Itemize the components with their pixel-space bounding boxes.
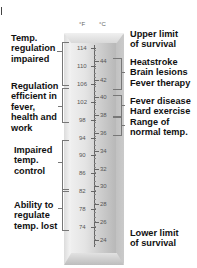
minor-tick [94,176,96,177]
celsius-tick: 38 [100,112,107,118]
fahrenheit-tick-label: 78 [79,206,86,212]
minor-tick [94,199,96,200]
minor-tick [94,145,96,146]
tick-mark [94,80,99,81]
minor-tick [94,68,96,69]
fahrenheit-tick-label: 74 [79,224,86,230]
minor-tick [94,190,96,191]
celsius-tick-label: 40 [100,94,107,100]
tick-mark [94,133,99,134]
fahrenheit-tick: 82 [77,188,86,194]
minor-tick [94,127,96,128]
thermometer-top-bevel [64,33,124,43]
minor-tick [94,212,96,213]
bracket-connector [121,105,125,106]
fahrenheit-tick-label: 102 [77,99,87,105]
bracket-heatstroke-group [113,58,122,90]
minor-tick [94,230,96,231]
fahrenheit-tick-label: 106 [77,81,87,87]
minor-tick [94,50,96,51]
celsius-tick-label: 28 [100,201,107,207]
minor-tick [94,59,96,60]
bracket-connector [121,125,125,126]
fahrenheit-tick: 102 [77,99,87,105]
tick-mark [94,169,99,170]
minor-tick [94,91,96,92]
fahrenheit-tick-label: 86 [79,170,86,176]
minor-tick [94,64,96,65]
minor-tick [94,226,96,227]
minor-tick [94,100,96,101]
minor-tick [94,172,96,173]
minor-tick [94,113,96,114]
fahrenheit-tick: 90 [77,152,86,158]
bracket-ability-lost [62,189,69,231]
minor-tick [94,109,96,110]
minor-tick [94,136,96,137]
minor-tick [94,122,96,123]
minor-tick [94,217,96,218]
minor-tick [94,208,96,209]
label-upper-limit-of-survival: Upper limit of survival [130,29,178,50]
fahrenheit-tick-label: 114 [77,45,87,51]
minor-tick [94,163,96,164]
tick-mark [94,240,99,241]
celsius-tick-label: 38 [100,112,107,118]
bracket-connector [121,72,125,73]
bracket-connector [57,51,62,52]
minor-tick [94,131,96,132]
fahrenheit-unit-label: °F [79,21,85,27]
minor-tick [94,154,96,155]
fahrenheit-tick: 110 [77,63,87,69]
minor-tick [94,235,96,236]
celsius-tick-label: 42 [100,77,107,83]
celsius-tick-label: 26 [100,219,107,225]
thermometer-bottom-bevel [64,253,124,265]
bracket-regulation-efficient [62,88,69,123]
minor-tick [94,221,96,222]
minor-tick [94,104,96,105]
minor-tick [94,194,96,195]
tick-mark [91,173,96,174]
bracket-impaired-temp-control [62,140,69,192]
tick-mark [91,227,96,228]
fahrenheit-tick: 78 [77,206,86,212]
tick-mark [91,66,96,67]
fahrenheit-tick: 86 [77,170,86,176]
bracket-temp-regulation-impaired [62,42,69,86]
fahrenheit-tick-label: 82 [79,188,86,194]
label-regulation-efficient: Regulation efficient in fever, health an… [11,81,58,133]
celsius-tick-label: 24 [100,237,107,243]
tick-mark [94,222,99,223]
celsius-tick-label: 30 [100,183,107,189]
fahrenheit-tick-label: 98 [79,117,86,123]
minor-tick [94,82,96,83]
minor-tick [94,55,96,56]
minor-tick [94,149,96,150]
celsius-tick: 42 [100,77,107,83]
minor-tick [94,95,96,96]
tick-mark [91,84,96,85]
fahrenheit-tick: 106 [77,81,87,87]
bracket-connector [58,106,62,107]
bracket-connector [58,208,62,209]
minor-tick [94,244,96,245]
corner-mark [1,7,2,15]
celsius-tick: 36 [100,130,107,136]
minor-tick [94,239,96,240]
fahrenheit-tick-label: 90 [79,152,86,158]
tick-mark [91,102,96,103]
tick-mark [91,209,96,210]
minor-tick [94,118,96,119]
fahrenheit-tick: 98 [77,117,86,123]
bracket-connector [58,162,62,163]
celsius-tick: 24 [100,237,107,243]
minor-tick [94,73,96,74]
fahrenheit-tick: 114 [77,45,87,51]
minor-tick [94,181,96,182]
label-ability-to-regulate-lost: Ability to regulate temp. lost [14,200,57,231]
tick-mark [94,97,99,98]
label-impaired-temp-control: Impaired temp. control [14,145,52,176]
celsius-tick: 26 [100,219,107,225]
bracket-fever-disease [113,95,122,117]
